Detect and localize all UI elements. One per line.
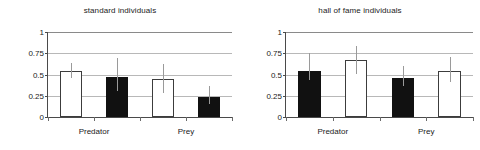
- chart-title: standard individuals: [0, 6, 240, 15]
- bar: [60, 71, 82, 117]
- figure-canvas: standard individuals 00.250.50.751 Preda…: [0, 0, 480, 150]
- x-tick-mark: [333, 117, 334, 121]
- x-tick-mark: [286, 117, 287, 121]
- y-tick-label: 0.5: [271, 70, 282, 79]
- plot-area: 00.250.50.751 PredatorPrey: [47, 32, 232, 118]
- y-tick-label: 0: [40, 113, 44, 122]
- y-tick-label: 0.25: [28, 91, 44, 100]
- x-axis-label: Prey: [178, 127, 194, 136]
- x-tick-mark: [186, 117, 187, 121]
- y-tick-label: 0: [278, 113, 282, 122]
- x-axis-label: Predator: [317, 127, 348, 136]
- error-bar: [356, 46, 357, 74]
- x-tick-mark: [140, 117, 141, 121]
- error-bar: [403, 66, 404, 86]
- x-tick-mark: [232, 117, 233, 121]
- error-bar: [117, 58, 118, 91]
- y-tick-label: 0.75: [266, 49, 282, 58]
- chart-panel-standard-individuals: standard individuals 00.250.50.751 Preda…: [0, 0, 240, 150]
- error-bar: [71, 63, 72, 77]
- error-bar: [309, 53, 310, 79]
- y-tick-label: 1: [40, 28, 44, 37]
- y-tick-label: 1: [278, 28, 282, 37]
- x-tick-mark: [48, 117, 49, 121]
- bar-series: [286, 32, 473, 117]
- chart-title: hall of fame individuals: [240, 6, 480, 15]
- y-tick-label: 0.75: [28, 49, 44, 58]
- x-tick-mark: [380, 117, 381, 121]
- x-tick-mark: [473, 117, 474, 121]
- chart-panel-hall-of-fame-individuals: hall of fame individuals 00.250.50.751 P…: [240, 0, 480, 150]
- y-tick-label: 0.25: [266, 91, 282, 100]
- error-bar: [209, 86, 210, 105]
- x-axis-label: Predator: [79, 127, 110, 136]
- x-tick-mark: [94, 117, 95, 121]
- error-bar: [163, 64, 164, 93]
- x-tick-mark: [426, 117, 427, 121]
- plot-area: 00.250.50.751 PredatorPrey: [285, 32, 473, 118]
- x-axis-label: Prey: [418, 127, 434, 136]
- y-tick-label: 0.5: [33, 70, 44, 79]
- error-bar: [450, 57, 451, 83]
- bar-series: [48, 32, 232, 117]
